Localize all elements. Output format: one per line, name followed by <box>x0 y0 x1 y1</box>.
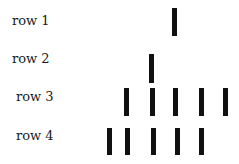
row-4-bar-4 <box>175 128 180 155</box>
row-label-3: row 3 <box>16 90 54 103</box>
row-4-bar-5 <box>199 128 204 155</box>
row-4-bar-1 <box>107 128 112 155</box>
row-3-bar-3 <box>173 88 178 116</box>
row-1-bar-1 <box>172 8 177 36</box>
row-label-2: row 2 <box>12 52 50 65</box>
row-3-bar-2 <box>150 88 155 116</box>
row-4-bar-2 <box>125 128 130 155</box>
row-label-4: row 4 <box>16 129 54 142</box>
row-3-bar-4 <box>199 88 204 116</box>
row-3-bar-5 <box>223 88 228 116</box>
row-label-1: row 1 <box>12 14 50 27</box>
row-3-bar-1 <box>124 88 129 116</box>
row-2-bar-1 <box>149 54 154 83</box>
row-4-bar-3 <box>151 128 156 155</box>
